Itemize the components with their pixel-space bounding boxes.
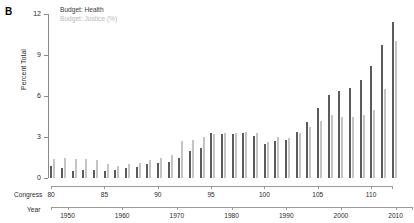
congress-tick — [371, 186, 372, 189]
bar-justice — [75, 159, 77, 178]
bar-health — [296, 132, 298, 178]
congress-tick-label: 110 — [366, 191, 377, 198]
bar-justice — [171, 155, 173, 178]
bar-group — [210, 14, 216, 178]
bar-health — [93, 170, 95, 178]
y-tick-label: 3 — [19, 133, 41, 140]
bar-group — [306, 14, 312, 178]
bar-group — [82, 14, 88, 178]
bar-health — [274, 141, 276, 178]
bar-justice — [245, 132, 247, 178]
bar-justice — [53, 159, 55, 178]
bar-health — [317, 108, 319, 178]
congress-tick-label: 85 — [101, 191, 108, 198]
bar-group — [370, 14, 376, 178]
bar-health — [370, 66, 372, 178]
bar-health — [104, 171, 106, 178]
bar-health — [146, 164, 148, 178]
congress-tick-label: 95 — [207, 191, 214, 198]
bar-health — [232, 134, 234, 178]
year-axis-name: Year — [27, 206, 40, 213]
year-tick — [396, 207, 397, 210]
bar-health — [242, 133, 244, 178]
year-tick-label: 1970 — [170, 212, 185, 219]
year-tick-label: 2010 — [388, 212, 403, 219]
bar-group — [104, 14, 110, 178]
chart-panel-b: B Percent Total 036912 Budget: Health Bu… — [0, 0, 414, 223]
year-tick — [177, 207, 178, 210]
bar-health — [61, 168, 63, 178]
bar-justice — [107, 164, 109, 178]
bar-group — [221, 14, 227, 178]
bar-health — [168, 162, 170, 178]
bar-justice — [85, 159, 87, 178]
bar-justice — [139, 163, 141, 178]
bar-justice — [96, 160, 98, 178]
bar-health — [178, 158, 180, 179]
bar-group — [146, 14, 152, 178]
bar-group — [338, 14, 344, 178]
bar-health — [306, 122, 308, 178]
bar-health — [125, 168, 127, 178]
bar-group — [349, 14, 355, 178]
bar-health — [189, 151, 191, 178]
bar-group — [125, 14, 131, 178]
bar-justice — [213, 134, 215, 178]
bar-group — [296, 14, 302, 178]
year-tick — [68, 207, 69, 210]
bar-health — [338, 91, 340, 178]
year-tick — [341, 207, 342, 210]
bar-group — [72, 14, 78, 178]
bar-justice — [181, 141, 183, 178]
bar-justice — [363, 115, 365, 178]
year-axis-cap — [51, 207, 52, 210]
bar-group — [93, 14, 99, 178]
congress-tick — [104, 186, 105, 189]
bar-health — [114, 170, 116, 178]
y-tick-label: 0 — [19, 174, 41, 181]
bar-health — [221, 134, 223, 178]
bar-health — [82, 170, 84, 178]
year-tick-label: 1950 — [60, 212, 75, 219]
year-tick — [286, 207, 287, 210]
year-tick-label: 1960 — [115, 212, 130, 219]
bar-justice — [309, 127, 311, 178]
bar-justice — [149, 160, 151, 178]
panel-label: B — [5, 6, 12, 17]
bar-justice — [235, 133, 237, 178]
congress-tick-label: 90 — [154, 191, 161, 198]
bar-justice — [64, 158, 66, 179]
bar-group — [114, 14, 120, 178]
bar-group — [274, 14, 280, 178]
congress-tick — [158, 186, 159, 189]
congress-tick — [264, 186, 265, 189]
year-tick — [122, 207, 123, 210]
year-axis-cap — [412, 207, 413, 210]
bar-health — [285, 140, 287, 178]
year-tick — [232, 207, 233, 210]
bar-health — [392, 22, 394, 178]
bar-justice — [267, 142, 269, 178]
bar-justice — [277, 137, 279, 178]
y-tick-label: 12 — [19, 10, 41, 17]
congress-tick-label: 105 — [312, 191, 323, 198]
bar-justice — [224, 133, 226, 178]
bar-group — [328, 14, 334, 178]
y-tick — [44, 96, 48, 97]
bar-group — [381, 14, 387, 178]
bar-group — [253, 14, 259, 178]
bar-group — [317, 14, 323, 178]
bar-group — [200, 14, 206, 178]
bar-justice — [288, 138, 290, 178]
congress-axis-cap — [392, 186, 393, 189]
bar-group — [157, 14, 163, 178]
congress-tick-label: 100 — [259, 191, 270, 198]
bar-group-container — [49, 14, 401, 178]
year-tick-label: 2000 — [334, 212, 349, 219]
bar-justice — [341, 117, 343, 179]
year-tick-label: 1990 — [279, 212, 294, 219]
bar-justice — [331, 115, 333, 178]
bar-health — [349, 88, 351, 178]
y-tick — [44, 178, 48, 179]
bar-group — [178, 14, 184, 178]
